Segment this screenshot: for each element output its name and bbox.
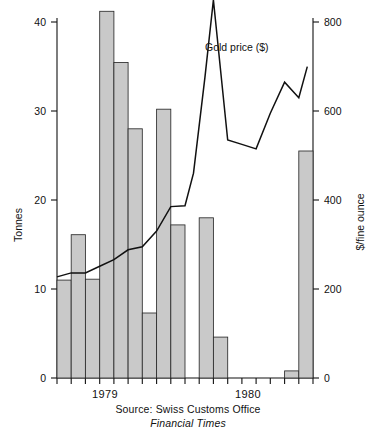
left-axis-title: Tonnes [12,208,24,242]
gold-chart-svg: 0 10 20 30 40 Tonnes 0 200 400 600 800 $… [0,0,376,446]
left-tick-label-20: 20 [34,194,46,206]
left-tick-label-0: 0 [40,372,46,384]
bar-m2 [71,235,85,378]
bar-m8 [157,109,171,378]
x-axis: 1979 1980 [57,378,313,400]
bar-m12 [213,337,227,378]
right-tick-label-0: 0 [324,372,330,384]
bar-m5 [114,63,128,379]
left-tick-label-10: 10 [34,283,46,295]
bar-series-gold-imports [57,11,313,378]
left-tick-label-30: 30 [34,105,46,117]
bar-m18 [299,151,313,378]
chart-figure: 0 10 20 30 40 Tonnes 0 200 400 600 800 $… [0,0,376,446]
bar-m7 [142,313,156,378]
right-tick-label-200: 200 [324,283,342,295]
bar-m17 [285,371,299,378]
source-line-organisation: Source: Swiss Customs Office [0,402,376,416]
bar-m9 [171,225,185,378]
x-label-1980: 1980 [235,388,261,400]
source-line-publication: Financial Times [0,416,376,430]
bar-m11 [199,218,213,378]
right-axis-ticks [313,22,319,378]
right-tick-label-600: 600 [324,105,342,117]
left-axis: 0 10 20 30 40 Tonnes [12,16,57,384]
right-tick-label-400: 400 [324,194,342,206]
bar-m6 [128,129,142,378]
right-tick-label-800: 800 [324,16,342,28]
bar-m1 [57,280,71,378]
left-tick-label-40: 40 [34,16,46,28]
source-caption: Source: Swiss Customs Office Financial T… [0,402,376,430]
x-label-1979: 1979 [92,388,118,400]
right-axis-title: $/fine ounce [354,193,366,250]
gold-price-annotation: Gold price ($) [205,41,269,53]
left-axis-ticks [51,22,57,378]
right-axis: 0 200 400 600 800 $/fine ounce [313,16,366,384]
bar-m4 [100,11,114,378]
bar-m3 [85,279,99,378]
x-axis-ticks [57,378,313,384]
